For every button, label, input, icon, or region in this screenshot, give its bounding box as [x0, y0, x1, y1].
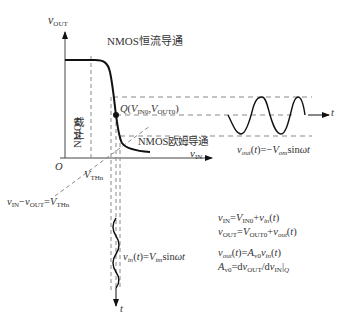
- equation-vout: vOUT=VOUT0+vout(t): [218, 227, 297, 239]
- x-axis-label: vIN: [190, 148, 202, 161]
- input-t-label: t: [120, 304, 123, 315]
- equation-gain: vout(t)=Av0vin(t): [218, 248, 281, 260]
- output-sine-wave: [228, 97, 305, 134]
- output-t-label: t: [331, 108, 334, 119]
- equation-av0: Av0=dvOUT/dvIN|Q: [218, 262, 289, 274]
- origin-label: O: [55, 162, 63, 173]
- q-point-label: Q(VIN0,VOUT0): [120, 104, 179, 116]
- boundary-dashed-line: [55, 126, 150, 196]
- saturation-region-label: NMOS恒流导通: [107, 36, 183, 47]
- triode-region-label: NMOS欧姆导通: [138, 137, 208, 148]
- vthn-label: VTHn: [84, 170, 103, 182]
- cutoff-label-line2: 截止: [74, 117, 86, 141]
- y-axis-label: vOUT: [48, 14, 68, 28]
- equation-vin: vIN=VIN0+vin(t): [218, 213, 279, 225]
- input-wave-equation: vin(t)=Vimsinωt: [123, 252, 185, 264]
- boundary-equation: vIN−vOUT=VTHn: [7, 197, 69, 209]
- output-wave-equation: vout(t)=−Vomsinωt: [237, 145, 310, 157]
- q-point-dot: [113, 112, 119, 118]
